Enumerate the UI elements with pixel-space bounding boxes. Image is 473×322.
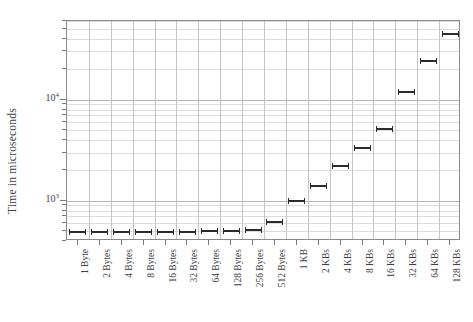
x-axis-tick-label: 128 Bytes (234, 249, 244, 287)
x-axis-tick (165, 240, 166, 245)
y-axis-tick-mantissa: 10 (46, 193, 56, 204)
y-axis-minor-tick (62, 103, 66, 104)
data-marker (354, 147, 371, 149)
marker-cap-left (179, 229, 180, 235)
y-axis-title: Time in microseconds (0, 0, 24, 322)
y-gridline (67, 201, 459, 202)
y-axis-minor-tick (62, 230, 66, 231)
marker-cap-right (151, 229, 152, 235)
y-gridline (67, 122, 459, 123)
x-axis-tick (77, 240, 78, 245)
plot-area (66, 20, 460, 240)
y-axis-minor-tick (62, 68, 66, 69)
marker-cap-left (245, 227, 246, 233)
x-axis-tick (99, 240, 100, 245)
y-axis-minor-tick (62, 121, 66, 122)
marker-cap-left (442, 31, 443, 37)
x-axis-tick (362, 240, 363, 245)
x-axis-tick (208, 240, 209, 245)
x-axis-tick-label: 16 Bytes (169, 249, 179, 283)
x-gridline (330, 21, 331, 239)
data-marker (442, 33, 459, 35)
data-marker (310, 185, 327, 187)
marker-cap-left (354, 145, 355, 151)
data-marker (201, 230, 218, 232)
y-gridline (67, 216, 459, 217)
y-gridline (67, 130, 459, 131)
x-axis-tick (143, 240, 144, 245)
marker-cap-right (239, 228, 240, 234)
x-gridline (439, 21, 440, 239)
x-gridline (198, 21, 199, 239)
x-axis-tick (318, 240, 319, 245)
x-axis-tick (340, 240, 341, 245)
x-axis-tick-label: 8 KBs (366, 249, 376, 273)
marker-cap-left (266, 219, 267, 225)
marker-cap-left (113, 229, 114, 235)
x-axis-tick (405, 240, 406, 245)
x-gridline (352, 21, 353, 239)
x-axis-tick-label: 256 Bytes (256, 249, 266, 287)
y-axis-minor-tick (62, 28, 66, 29)
marker-cap-right (436, 58, 437, 64)
y-gridline (67, 115, 459, 116)
x-axis-tick-label: 1 KB (300, 249, 310, 269)
x-axis-tick (274, 240, 275, 245)
x-gridline (395, 21, 396, 239)
marker-cap-right (392, 126, 393, 132)
y-axis-minor-tick (62, 109, 66, 110)
x-gridline (89, 21, 90, 239)
marker-cap-right (85, 229, 86, 235)
data-marker (179, 231, 196, 233)
marker-cap-right (304, 198, 305, 204)
data-marker (266, 221, 283, 223)
marker-cap-left (420, 58, 421, 64)
marker-cap-right (458, 31, 459, 37)
data-marker (288, 200, 305, 202)
marker-cap-right (173, 229, 174, 235)
y-axis-minor-tick (62, 240, 66, 241)
marker-cap-right (217, 228, 218, 234)
x-axis-tick-label: 2 KBs (322, 249, 332, 273)
y-gridline (67, 29, 459, 30)
marker-cap-left (69, 229, 70, 235)
data-marker (69, 231, 86, 233)
data-marker (223, 230, 240, 232)
x-gridline (133, 21, 134, 239)
x-axis-tick (252, 240, 253, 245)
y-axis-minor-tick (62, 20, 66, 21)
x-axis-tick (230, 240, 231, 245)
x-gridline (176, 21, 177, 239)
y-gridline (67, 223, 459, 224)
y-axis-major-tick (60, 99, 66, 100)
marker-cap-left (135, 229, 136, 235)
x-axis-tick-label: 32 Bytes (190, 249, 200, 283)
data-marker (245, 229, 262, 231)
marker-cap-right (282, 219, 283, 225)
y-axis-minor-tick (62, 114, 66, 115)
x-gridline (242, 21, 243, 239)
y-gridline (67, 21, 459, 22)
y-axis-minor-tick (62, 222, 66, 223)
marker-cap-left (288, 198, 289, 204)
y-axis-tick-exponent: 3 (56, 191, 60, 199)
x-axis-tick-label: 4 Bytes (125, 249, 135, 278)
x-axis-tick (449, 240, 450, 245)
x-axis-tick-label: 16 KBs (387, 249, 397, 278)
x-axis-tick-label: 4 KBs (344, 249, 354, 273)
x-gridline (155, 21, 156, 239)
y-axis-minor-tick (62, 38, 66, 39)
y-gridline (67, 51, 459, 52)
y-axis-minor-tick (62, 139, 66, 140)
y-axis-tick-exponent: 4 (56, 90, 60, 98)
y-gridline (67, 100, 459, 101)
marker-cap-left (332, 163, 333, 169)
y-gridline (67, 211, 459, 212)
y-axis-minor-tick (62, 204, 66, 205)
marker-cap-right (326, 183, 327, 189)
y-gridline (67, 205, 459, 206)
y-axis-minor-tick (62, 169, 66, 170)
x-axis-tick-label: 32 KBs (409, 249, 419, 278)
marker-cap-right (370, 145, 371, 151)
x-axis-tick (296, 240, 297, 245)
